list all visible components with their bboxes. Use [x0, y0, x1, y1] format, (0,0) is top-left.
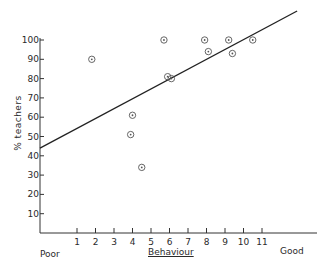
x-tick-label: 9	[222, 237, 228, 247]
x-tick-label: 11	[256, 237, 267, 247]
x-axis-poor-label: Poor	[40, 249, 60, 259]
y-tick-label: 40	[28, 151, 40, 161]
x-axis-label: Behaviour	[148, 247, 194, 257]
x-tick-label: 5	[148, 237, 154, 247]
data-point	[250, 37, 256, 43]
y-axis-ticks: 102030405060708090100	[22, 35, 44, 219]
x-axis-ticks: 1234567891011	[74, 228, 268, 247]
x-tick-label: 6	[167, 237, 173, 247]
y-tick-label: 10	[28, 209, 40, 219]
x-tick-label: 7	[185, 237, 191, 247]
x-tick-label: 3	[111, 237, 117, 247]
data-point	[226, 37, 232, 43]
data-point	[229, 50, 235, 56]
y-tick-label: 50	[28, 132, 40, 142]
x-tick-label: 2	[93, 237, 99, 247]
y-tick-label: 20	[28, 189, 40, 199]
data-points	[89, 37, 256, 171]
x-tick-label: 4	[130, 237, 136, 247]
y-tick-label: 70	[28, 93, 40, 103]
data-point	[139, 164, 145, 170]
data-point	[129, 112, 135, 118]
x-tick-label: 1	[74, 237, 80, 247]
y-tick-label: 30	[28, 170, 40, 180]
data-point	[161, 37, 167, 43]
y-axis-label: % teachers	[13, 93, 23, 153]
y-tick-label: 100	[22, 35, 39, 45]
axes	[40, 38, 317, 233]
y-tick-label: 80	[28, 74, 40, 84]
y-tick-label: 60	[28, 112, 40, 122]
data-point	[201, 37, 207, 43]
data-point	[89, 56, 95, 62]
scatter-chart: 102030405060708090100 1234567891011	[0, 0, 317, 270]
x-tick-label: 10	[238, 237, 250, 247]
data-point	[205, 48, 211, 54]
y-tick-label: 90	[28, 54, 40, 64]
data-point	[164, 73, 170, 79]
data-point	[127, 131, 133, 137]
x-tick-label: 8	[204, 237, 210, 247]
x-axis-good-label: Good	[280, 246, 304, 256]
